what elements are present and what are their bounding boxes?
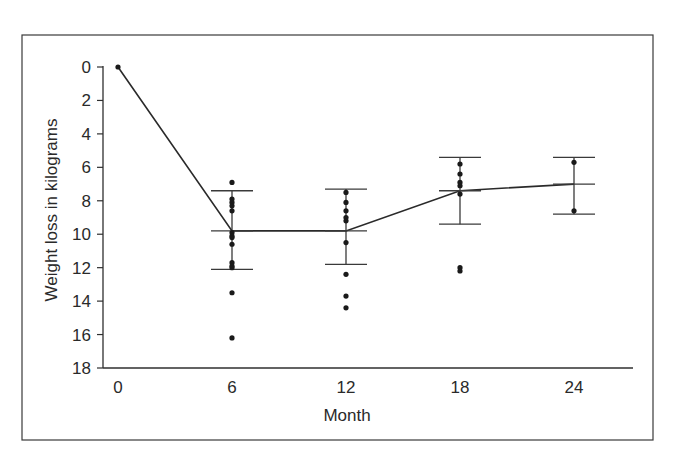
- data-point: [229, 180, 234, 185]
- data-point: [343, 293, 348, 298]
- weight-loss-chart: 024681012141618 06121824 Month Weight lo…: [0, 0, 674, 454]
- x-tick-label: 24: [565, 378, 584, 397]
- data-point: [229, 290, 234, 295]
- y-tick-label: 4: [82, 125, 91, 144]
- data-points: [115, 64, 576, 340]
- y-tick-label: 14: [72, 292, 91, 311]
- x-axis-ticks: 06121824: [113, 378, 583, 397]
- data-point: [343, 272, 348, 277]
- axes: [103, 66, 633, 368]
- y-tick-label: 12: [72, 259, 91, 278]
- data-point: [343, 305, 348, 310]
- data-point: [229, 203, 234, 208]
- data-point: [229, 265, 234, 270]
- data-point: [229, 335, 234, 340]
- x-tick-label: 6: [227, 378, 236, 397]
- data-point: [343, 240, 348, 245]
- x-axis-label: Month: [323, 406, 370, 425]
- data-point: [343, 218, 348, 223]
- y-tick-label: 16: [72, 326, 91, 345]
- y-axis-label: Weight loss in kilograms: [42, 119, 61, 302]
- mean-line: [118, 67, 595, 231]
- y-tick-label: 6: [82, 158, 91, 177]
- data-point: [457, 171, 462, 176]
- x-tick-label: 18: [451, 378, 470, 397]
- data-point: [457, 268, 462, 273]
- y-tick-label: 8: [82, 192, 91, 211]
- data-point: [229, 235, 234, 240]
- y-tick-label: 0: [82, 58, 91, 77]
- y-axis-ticks: 024681012141618: [72, 58, 103, 378]
- data-point: [343, 200, 348, 205]
- error-bars: [211, 157, 595, 269]
- y-tick-label: 10: [72, 225, 91, 244]
- y-tick-label: 18: [72, 359, 91, 378]
- x-tick-label: 12: [337, 378, 356, 397]
- data-point: [457, 191, 462, 196]
- data-point: [457, 161, 462, 166]
- data-point: [115, 64, 120, 69]
- data-point: [571, 160, 576, 165]
- data-point: [229, 242, 234, 247]
- data-point: [457, 183, 462, 188]
- data-point: [229, 208, 234, 213]
- data-point: [571, 208, 576, 213]
- data-point: [343, 190, 348, 195]
- y-tick-label: 2: [82, 91, 91, 110]
- x-tick-label: 0: [113, 378, 122, 397]
- data-point: [343, 208, 348, 213]
